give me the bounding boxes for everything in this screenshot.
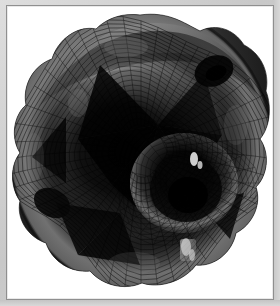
plot-canvas <box>8 7 272 298</box>
surface-plot-svg <box>8 7 272 298</box>
background-bottom-edge <box>0 300 280 306</box>
image-frame <box>6 5 274 300</box>
screenshot-root <box>0 0 280 306</box>
background-right-edge <box>274 0 280 306</box>
